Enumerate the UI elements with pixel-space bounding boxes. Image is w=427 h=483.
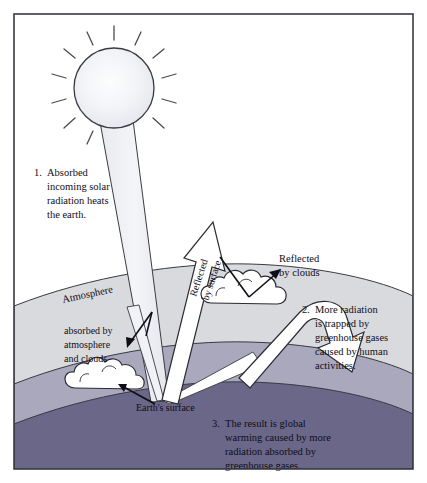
reflected-by-clouds-line-1: Reflected xyxy=(279,253,320,264)
step-2-line-2: is trapped by xyxy=(315,318,370,329)
diagram-canvas: 1. Absorbed incoming solar radiation hea… xyxy=(0,0,427,483)
step-1-line-2: incoming solar xyxy=(47,181,110,192)
step-2-line-4: caused by human xyxy=(315,346,389,357)
step-3-line-2: warming caused by more xyxy=(225,432,331,443)
absorbed-by-line-3: and clouds xyxy=(64,353,107,364)
step-1-number: 1. xyxy=(34,167,42,178)
earths-surface-label: Earth's surface xyxy=(136,402,195,413)
step-2-line-1: More radiation xyxy=(315,304,378,315)
absorbed-by-line-2: atmosphere xyxy=(64,339,111,350)
step-3-number: 3. xyxy=(212,418,220,429)
step-2-line-3: greenhouse gases xyxy=(315,332,388,343)
greenhouse-effect-figure: 1. Absorbed incoming solar radiation hea… xyxy=(0,0,427,483)
step-3-line-3: radiation absorbed by xyxy=(225,446,317,457)
reflected-by-clouds-line-2: by clouds xyxy=(279,267,320,278)
step-1-line-4: the earth. xyxy=(47,209,86,220)
sun-disc xyxy=(74,48,154,128)
step-2-number: 2. xyxy=(302,304,310,315)
step-2-line-5: activities. xyxy=(315,360,356,371)
absorbed-by-line-1: absorbed by xyxy=(64,325,113,336)
step-1-line-1: Absorbed xyxy=(47,167,89,178)
step-3-line-1: The result is global xyxy=(225,418,306,429)
absorbed-by-label: absorbed by atmosphere and clouds xyxy=(64,325,113,364)
step-1-line-3: radiation heats xyxy=(47,195,109,206)
